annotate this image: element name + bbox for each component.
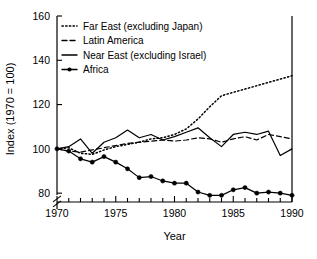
legend-label-2: Latin America — [83, 35, 144, 46]
series-marker — [278, 191, 282, 195]
chart-figure: 8010012014016019701975198019851990YearIn… — [0, 0, 317, 259]
x-tick-label: 1990 — [280, 207, 304, 219]
series-marker — [102, 155, 106, 159]
series-marker — [172, 181, 176, 185]
series-marker — [125, 167, 129, 171]
x-tick-label: 1980 — [163, 207, 187, 219]
legend-label-3: Near East (excluding Israel) — [83, 50, 206, 61]
series-line-4 — [57, 149, 292, 196]
series-marker — [266, 190, 270, 194]
y-axis-title: Index (1970 = 100) — [4, 63, 16, 156]
series-line-3 — [57, 128, 292, 156]
series-marker — [243, 186, 247, 190]
legend-item-3[interactable]: Near East (excluding Israel) — [62, 50, 206, 61]
legend-item-1[interactable]: Far East (excluding Japan) — [62, 21, 203, 32]
series-marker — [208, 193, 212, 197]
series-marker — [196, 190, 200, 194]
y-tick-label: 160 — [32, 10, 50, 22]
x-tick-label: 1970 — [45, 207, 69, 219]
legend-label-4: Africa — [83, 64, 109, 75]
legend-marker-4 — [67, 67, 71, 71]
series-marker — [149, 174, 153, 178]
x-tick-label: 1985 — [222, 207, 246, 219]
series-marker — [137, 176, 141, 180]
series-marker — [161, 179, 165, 183]
x-axis-title: Year — [163, 230, 186, 242]
series-marker — [67, 149, 71, 153]
series-marker — [78, 157, 82, 161]
legend-label-1: Far East (excluding Japan) — [83, 21, 203, 32]
y-tick-label: 140 — [32, 54, 50, 66]
legend-item-2[interactable]: Latin America — [62, 35, 144, 46]
series-marker — [55, 147, 59, 151]
series-marker — [231, 188, 235, 192]
series-marker — [255, 191, 259, 195]
series-line-1 — [57, 76, 292, 155]
y-tick-label: 120 — [32, 98, 50, 110]
y-tick-label: 100 — [32, 143, 50, 155]
y-tick-label: 80 — [38, 187, 50, 199]
x-tick-label: 1975 — [104, 207, 128, 219]
series-marker — [184, 181, 188, 185]
series-marker — [219, 193, 223, 197]
line-chart: 8010012014016019701975198019851990YearIn… — [0, 0, 317, 259]
series-marker — [114, 160, 118, 164]
series-marker — [90, 160, 94, 164]
series-marker — [290, 193, 294, 197]
legend-item-4[interactable]: Africa — [62, 64, 109, 75]
